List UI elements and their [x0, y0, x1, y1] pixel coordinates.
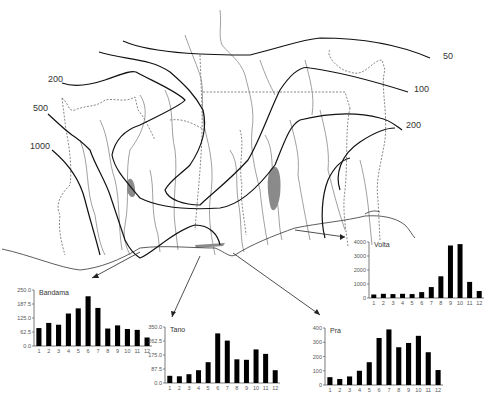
x-tick-label: 12 — [476, 300, 482, 306]
bar-month-3 — [390, 294, 395, 298]
chart-title: Volta — [374, 241, 390, 248]
y-tick-label: 62.5 — [20, 329, 31, 335]
x-tick-label: 9 — [407, 387, 410, 393]
bar-month-9 — [406, 343, 411, 385]
x-tick-label: 8 — [439, 300, 442, 306]
bar-month-8 — [234, 359, 239, 383]
x-tick-label: 4 — [197, 385, 200, 391]
x-tick-label: 3 — [57, 348, 60, 354]
isohyet-label: 200 — [48, 74, 63, 84]
y-tick-label: 2000 — [354, 267, 366, 273]
bar-month-3 — [186, 374, 191, 383]
bar-month-9 — [115, 325, 120, 346]
x-tick-label: 5 — [77, 348, 80, 354]
y-tick-label: 1000 — [354, 281, 366, 287]
isohyet-label: 100 — [414, 84, 429, 94]
x-tick-label: 8 — [397, 387, 400, 393]
y-tick-label: 200 — [313, 354, 322, 360]
isohyet-label: 500 — [33, 103, 48, 113]
y-tick-label: 262.5 — [148, 338, 162, 344]
bar-month-12 — [273, 370, 278, 383]
bar-month-5 — [76, 308, 81, 346]
bar-chart-bandama: 0.062.5125.0187.5250.0123456789101112Ban… — [34, 290, 156, 358]
bar-month-9 — [448, 246, 453, 299]
x-tick-label: 7 — [430, 300, 433, 306]
y-tick-label: 4000 — [354, 239, 366, 245]
bar-month-3 — [347, 376, 352, 385]
rivers — [80, 10, 372, 255]
bar-month-12 — [436, 370, 441, 385]
x-tick-label: 11 — [134, 348, 140, 354]
isohyet-label: 200 — [406, 120, 421, 130]
bar-month-4 — [357, 371, 362, 385]
x-tick-label: 11 — [263, 385, 269, 391]
x-tick-label: 8 — [106, 348, 109, 354]
y-tick-label: 187.5 — [17, 301, 31, 307]
x-tick-label: 12 — [272, 385, 278, 391]
x-tick-label: 1 — [372, 300, 375, 306]
bar-month-10 — [254, 349, 259, 383]
bar-month-2 — [177, 376, 182, 383]
isohyet-lines — [48, 38, 430, 258]
x-tick-label: 7 — [96, 348, 99, 354]
x-tick-label: 3 — [187, 385, 190, 391]
y-tick-label: 3000 — [354, 253, 366, 259]
y-tick-label: 0 — [363, 295, 366, 301]
bar-month-12 — [477, 291, 482, 298]
x-tick-label: 2 — [178, 385, 181, 391]
x-tick-label: 3 — [348, 387, 351, 393]
bar-month-11 — [263, 354, 268, 383]
x-tick-label: 5 — [411, 300, 414, 306]
bar-month-1 — [327, 377, 332, 385]
bar-month-10 — [416, 336, 421, 385]
x-tick-label: 12 — [435, 387, 441, 393]
x-tick-label: 6 — [87, 348, 90, 354]
x-tick-label: 2 — [382, 300, 385, 306]
bar-month-4 — [196, 370, 201, 383]
x-tick-label: 4 — [67, 348, 70, 354]
x-tick-label: 4 — [358, 387, 361, 393]
bar-month-7 — [95, 308, 100, 346]
bar-month-11 — [135, 330, 140, 346]
isohyet-label: 1000 — [30, 141, 50, 151]
x-tick-label: 1 — [37, 348, 40, 354]
bar-month-2 — [46, 323, 51, 346]
bar-chart-tano: 0.087.5175.0262.5350.0123456789101112Tan… — [165, 327, 284, 395]
bar-month-2 — [337, 379, 342, 385]
bar-month-5 — [206, 362, 211, 383]
x-tick-label: 8 — [235, 385, 238, 391]
x-tick-label: 6 — [378, 387, 381, 393]
x-tick-label: 9 — [116, 348, 119, 354]
bar-month-11 — [467, 282, 472, 298]
x-tick-label: 5 — [368, 387, 371, 393]
bar-month-6 — [86, 296, 91, 346]
x-tick-label: 10 — [253, 385, 259, 391]
bar-month-8 — [105, 329, 110, 346]
bar-month-7 — [386, 329, 391, 385]
bar-month-4 — [400, 294, 405, 298]
x-tick-label: 6 — [420, 300, 423, 306]
bar-month-8 — [438, 276, 443, 298]
y-tick-label: 350.0 — [148, 324, 162, 330]
chart-title: Pra — [330, 327, 341, 334]
bar-month-1 — [371, 295, 376, 299]
y-tick-label: 87.5 — [151, 366, 162, 372]
bar-month-2 — [381, 294, 386, 298]
x-tick-label: 10 — [124, 348, 130, 354]
x-tick-label: 3 — [391, 300, 394, 306]
chart-title: Tano — [170, 326, 185, 333]
bar-month-11 — [426, 352, 431, 385]
x-tick-label: 7 — [387, 387, 390, 393]
x-tick-label: 2 — [338, 387, 341, 393]
y-tick-label: 300 — [313, 339, 322, 345]
x-tick-label: 2 — [47, 348, 50, 354]
bar-month-6 — [377, 338, 382, 385]
x-tick-label: 6 — [216, 385, 219, 391]
bar-month-8 — [396, 347, 401, 385]
y-tick-label: 125.0 — [17, 315, 31, 321]
y-tick-label: 175.0 — [148, 352, 162, 358]
bar-month-9 — [244, 360, 249, 383]
bar-chart-pra: 0100200300400123456789101112Pra — [325, 328, 447, 397]
bar-month-5 — [367, 362, 372, 385]
x-tick-label: 9 — [449, 300, 452, 306]
